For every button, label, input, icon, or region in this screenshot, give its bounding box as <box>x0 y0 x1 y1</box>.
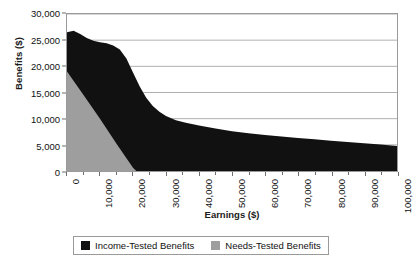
x-axis-tick-mark <box>232 172 233 176</box>
x-axis-tick-label: 40,000 <box>203 179 214 208</box>
x-axis-tick-label: 0 <box>70 179 81 184</box>
x-axis-minor-tick-mark <box>215 172 216 175</box>
legend-swatch-black-icon <box>81 241 90 250</box>
x-axis-minor-tick-mark <box>249 172 250 175</box>
y-axis-tick-mark <box>62 13 66 14</box>
x-axis-tick-mark <box>298 172 299 176</box>
x-axis-tick-mark <box>265 172 266 176</box>
x-axis-minor-tick-mark <box>381 172 382 175</box>
x-axis-tick-mark <box>199 172 200 176</box>
legend-label: Income-Tested Benefits <box>95 240 194 251</box>
x-axis-minor-tick-mark <box>149 172 150 175</box>
legend-label: Needs-Tested Benefits <box>225 240 321 251</box>
x-axis-tick-labels: 010,00020,00030,00040,00050,00060,00070,… <box>0 0 414 267</box>
y-axis-tick-mark <box>62 66 66 67</box>
legend-swatch-gray-icon <box>211 241 220 250</box>
x-axis-minor-tick-mark <box>348 172 349 175</box>
x-axis-tick-label: 30,000 <box>170 179 181 208</box>
x-axis-tick-label: 10,000 <box>103 179 114 208</box>
x-axis-minor-tick-mark <box>83 172 84 175</box>
x-axis-tick-label: 20,000 <box>136 179 147 208</box>
x-axis-title: Earnings ($) <box>66 209 398 220</box>
legend-item: Income-Tested Benefits <box>81 240 194 251</box>
y-axis-tick-mark <box>62 92 66 93</box>
x-axis-tick-mark <box>132 172 133 176</box>
x-axis-tick-label: 90,000 <box>369 179 380 208</box>
y-axis-tick-mark <box>62 39 66 40</box>
x-axis-tick-mark <box>99 172 100 176</box>
x-axis-tick-mark <box>398 172 399 176</box>
area-chart: Benefits ($) 30,00025,00020,00015,00010,… <box>0 0 414 267</box>
x-axis-minor-tick-mark <box>182 172 183 175</box>
x-axis-tick-mark <box>332 172 333 176</box>
x-axis-tick-label: 100,000 <box>402 179 413 213</box>
x-axis-tick-label: 50,000 <box>236 179 247 208</box>
legend-item: Needs-Tested Benefits <box>211 240 321 251</box>
x-axis-tick-mark <box>365 172 366 176</box>
x-axis-tick-mark <box>166 172 167 176</box>
x-axis-minor-tick-mark <box>315 172 316 175</box>
x-axis-tick-label: 70,000 <box>302 179 313 208</box>
x-axis-minor-tick-mark <box>282 172 283 175</box>
y-axis-tick-mark <box>62 119 66 120</box>
x-axis-tick-label: 60,000 <box>269 179 280 208</box>
chart-legend: Income-Tested BenefitsNeeds-Tested Benef… <box>73 236 329 255</box>
x-axis-tick-mark <box>66 172 67 176</box>
x-axis-minor-tick-mark <box>116 172 117 175</box>
x-axis-tick-label: 80,000 <box>336 179 347 208</box>
y-axis-tick-mark <box>62 145 66 146</box>
